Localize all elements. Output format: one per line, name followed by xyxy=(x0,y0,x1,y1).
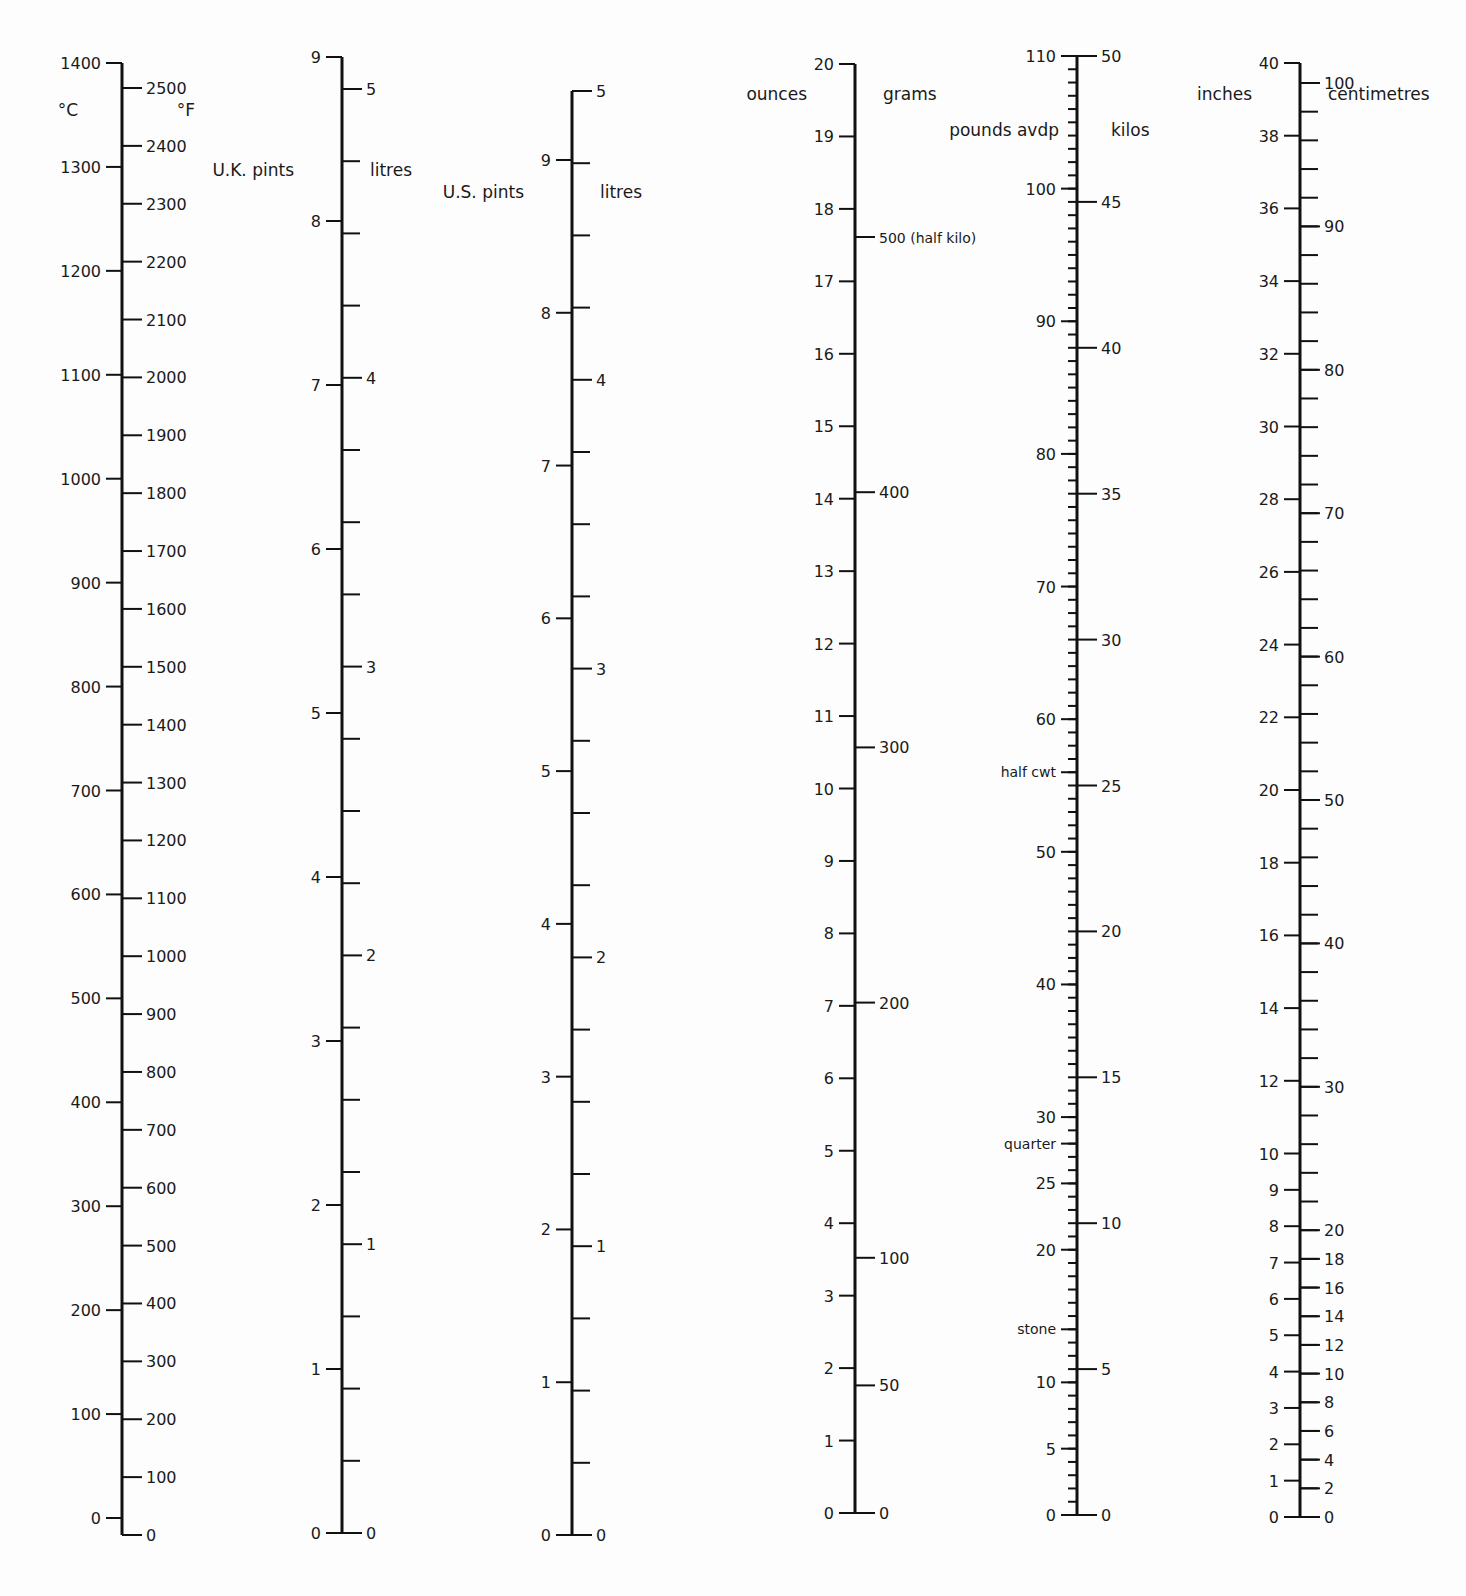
tick-label: 12 xyxy=(814,635,834,654)
tick-label: 8 xyxy=(1324,1393,1334,1412)
tick-label: 10 xyxy=(1259,1145,1279,1164)
tick-label: 16 xyxy=(1324,1279,1344,1298)
tick-label: 200 xyxy=(70,1301,101,1320)
tick-label: 1600 xyxy=(146,600,187,619)
tick-label: 9 xyxy=(1269,1181,1279,1200)
tick-label: 0 xyxy=(1324,1508,1334,1527)
tick-label: 2 xyxy=(541,1220,551,1239)
tick-label: 5 xyxy=(311,704,321,723)
tick-label: 5 xyxy=(596,82,606,101)
tick-label: 2100 xyxy=(146,311,187,330)
tick-label: 18 xyxy=(1259,854,1279,873)
tick-label: 100 xyxy=(70,1405,101,1424)
tick-label: 20 xyxy=(1259,781,1279,800)
tick-label: 5 xyxy=(541,762,551,781)
tick-label: 600 xyxy=(146,1179,177,1198)
tick-label: 50 xyxy=(1101,47,1121,66)
tick-label: 2500 xyxy=(146,79,187,98)
tick-label: 1500 xyxy=(146,658,187,677)
tick-label: 4 xyxy=(1324,1451,1334,1470)
tick-label: 15 xyxy=(814,417,834,436)
tick-label: 80 xyxy=(1324,361,1344,380)
tick-label: 2 xyxy=(311,1196,321,1215)
tick-label: 300 xyxy=(146,1352,177,1371)
tick-label: 6 xyxy=(311,540,321,559)
tick-label: 10 xyxy=(814,780,834,799)
tick-label: 0 xyxy=(1101,1506,1111,1525)
tick-label: 1100 xyxy=(146,889,187,908)
tick-label: 5 xyxy=(1046,1440,1056,1459)
unit-label-left: ounces xyxy=(746,84,807,104)
tick-label: 1 xyxy=(366,1235,376,1254)
tick-label: 2 xyxy=(366,946,376,965)
tick-label: 1700 xyxy=(146,542,187,561)
conversion-nomograms: 0100200300400500600700800900100011001200… xyxy=(0,0,1466,1596)
tick-label: 13 xyxy=(814,562,834,581)
tick-label: 3 xyxy=(1269,1399,1279,1418)
tick-label: 4 xyxy=(366,369,376,388)
tick-label: 3 xyxy=(824,1287,834,1306)
tick-label: 2 xyxy=(1324,1479,1334,1498)
unit-label-right: centimetres xyxy=(1328,84,1430,104)
tick-label: 70 xyxy=(1036,578,1056,597)
tick-label: 6 xyxy=(824,1069,834,1088)
tick-label: 0 xyxy=(541,1526,551,1545)
named-tick-label: quarter xyxy=(1004,1136,1056,1152)
tick-label: 16 xyxy=(1259,926,1279,945)
tick-label: 5 xyxy=(824,1142,834,1161)
tick-label: 90 xyxy=(1324,217,1344,236)
tick-label: 50 xyxy=(1324,791,1344,810)
tick-label: 20 xyxy=(1036,1241,1056,1260)
tick-label: 30 xyxy=(1259,418,1279,437)
tick-label: 28 xyxy=(1259,490,1279,509)
tick-label: 1300 xyxy=(60,158,101,177)
tick-label: 5 xyxy=(1269,1326,1279,1345)
tick-label: 300 xyxy=(879,738,910,757)
tick-label: 25 xyxy=(1101,777,1121,796)
tick-label: 100 xyxy=(879,1249,910,1268)
tick-label: 25 xyxy=(1036,1174,1056,1193)
tick-label: 100 xyxy=(146,1468,177,1487)
tick-label: 8 xyxy=(1269,1217,1279,1236)
tick-label: 9 xyxy=(311,48,321,67)
tick-label: 5 xyxy=(366,80,376,99)
tick-label: 500 (half kilo) xyxy=(879,230,976,246)
tick-label: 2300 xyxy=(146,195,187,214)
tick-label: 4 xyxy=(1269,1363,1279,1382)
tick-label: 0 xyxy=(824,1504,834,1523)
unit-label-right: litres xyxy=(600,182,642,202)
tick-label: 3 xyxy=(366,658,376,677)
tick-label: 5 xyxy=(1101,1360,1111,1379)
tick-label: 20 xyxy=(814,55,834,74)
tick-label: 1 xyxy=(596,1237,606,1256)
tick-label: 0 xyxy=(1046,1506,1056,1525)
tick-label: 1 xyxy=(1269,1472,1279,1491)
tick-label: 16 xyxy=(814,345,834,364)
tick-label: 1400 xyxy=(60,54,101,73)
tick-label: 60 xyxy=(1036,710,1056,729)
tick-label: 38 xyxy=(1259,127,1279,146)
tick-label: 7 xyxy=(1269,1254,1279,1273)
tick-label: 2 xyxy=(596,948,606,967)
tick-label: 32 xyxy=(1259,345,1279,364)
unit-label-right: litres xyxy=(370,160,412,180)
tick-label: 45 xyxy=(1101,193,1121,212)
tick-label: 70 xyxy=(1324,504,1344,523)
tick-label: 100 xyxy=(1025,180,1056,199)
tick-label: 200 xyxy=(146,1410,177,1429)
tick-label: 12 xyxy=(1259,1072,1279,1091)
tick-label: 3 xyxy=(596,660,606,679)
tick-label: 600 xyxy=(70,885,101,904)
tick-label: 2000 xyxy=(146,368,187,387)
tick-label: 19 xyxy=(814,127,834,146)
tick-label: 900 xyxy=(146,1005,177,1024)
unit-label-right: grams xyxy=(883,84,937,104)
tick-label: 20 xyxy=(1101,922,1121,941)
tick-label: 17 xyxy=(814,272,834,291)
tick-label: 4 xyxy=(311,868,321,887)
tick-label: 50 xyxy=(879,1376,899,1395)
named-tick-label: stone xyxy=(1017,1321,1056,1337)
tick-label: 1300 xyxy=(146,774,187,793)
tick-label: 800 xyxy=(146,1063,177,1082)
tick-label: 40 xyxy=(1324,934,1344,953)
